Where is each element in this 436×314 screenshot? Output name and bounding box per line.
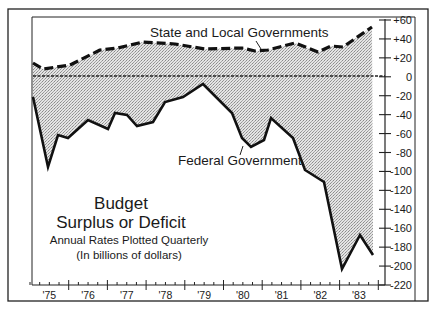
y-tick-label: 0 [406, 71, 412, 83]
y-tick-label: -100 [390, 165, 412, 177]
y-tick-label: -180 [390, 241, 412, 253]
budget-chart: +60+40+200-20-40-60-80-100-120-140-160-1… [0, 0, 436, 314]
chart-title-line2: Surplus or Deficit [56, 213, 186, 232]
chart-title-line1: Budget [94, 194, 148, 213]
x-tick-label: '77 [120, 289, 134, 301]
y-tick-label: -60 [396, 128, 412, 140]
y-tick-label: -220 [390, 279, 412, 291]
y-tick-label: -140 [390, 203, 412, 215]
y-tick-label: +20 [393, 52, 412, 64]
x-tick-label: '79 [197, 289, 211, 301]
x-tick-label: '83 [352, 289, 366, 301]
y-tick-label: -20 [396, 90, 412, 102]
state-local-label: State and Local Governments [150, 25, 329, 40]
y-tick-label: +60 [393, 14, 412, 26]
y-tick-label: -120 [390, 184, 412, 196]
chart-subtitle-line1: Annual Rates Plotted Quarterly [50, 234, 209, 246]
chart-subtitle-line2: (In billions of dollars) [76, 249, 182, 261]
y-tick-label: -40 [396, 109, 412, 121]
x-tick-label: '78 [159, 289, 173, 301]
y-tick-label: -200 [390, 260, 412, 272]
x-tick-label: '82 [313, 289, 327, 301]
x-tick-label: '81 [275, 289, 289, 301]
x-tick-label: '76 [81, 289, 95, 301]
x-tick-label: '80 [236, 289, 250, 301]
y-tick-label: -160 [390, 222, 412, 234]
x-tick-label: '75 [43, 289, 57, 301]
y-tick-label: +40 [393, 33, 412, 45]
federal-label: Federal Government [178, 153, 302, 168]
y-tick-label: -80 [396, 147, 412, 159]
